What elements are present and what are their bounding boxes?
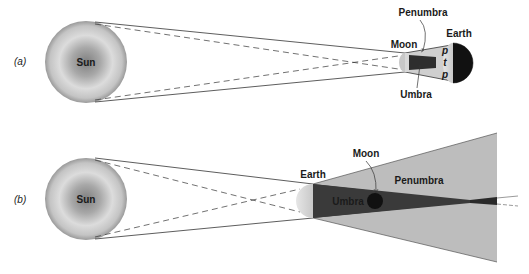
marker-p-bottom: p [441, 69, 448, 80]
penumbra-a-pointer [420, 20, 425, 51]
sun-b-label: Sun [77, 194, 96, 205]
earth-b-label: Earth [300, 169, 326, 180]
moon-a-label: Moon [391, 39, 418, 50]
marker-p-top: p [441, 45, 448, 56]
moon-a-icon [399, 53, 405, 72]
dashed-line-a-2 [95, 55, 405, 100]
earth-b-icon [296, 184, 313, 218]
tangent-line-b-top [95, 158, 313, 184]
panel-a-label: (a) [14, 56, 26, 67]
tangent-line-a-top [95, 22, 405, 53]
earth-a-dark-side-icon [453, 43, 473, 83]
penumbra-a-label: Penumbra [399, 7, 448, 18]
earth-a-label: Earth [446, 28, 472, 39]
tangent-line-b-bottom [95, 218, 313, 239]
moon-b-icon [367, 193, 383, 209]
sun-b: Sun [45, 158, 127, 240]
umbra-tail-top [497, 196, 518, 198]
umbra-tail-bottom [497, 204, 518, 206]
sun-a-label: Sun [77, 57, 96, 68]
panel-b: (b) Sun Earth Moon Penumbra U [14, 133, 518, 262]
umbra-a-label: Umbra [400, 89, 432, 100]
eclipse-diagram: (a) Sun p t p Moon Eart [0, 0, 529, 274]
panel-a: (a) Sun p t p Moon Eart [14, 7, 473, 103]
umbra-a [409, 55, 436, 70]
tangent-line-a-bottom [95, 72, 405, 102]
umbra-b-label: Umbra [332, 196, 364, 207]
panel-b-label: (b) [14, 194, 26, 205]
dashed-line-a-1 [95, 24, 405, 70]
penumbra-b-label: Penumbra [395, 175, 444, 186]
moon-b-label: Moon [353, 148, 380, 159]
sun-a: Sun [45, 21, 127, 103]
